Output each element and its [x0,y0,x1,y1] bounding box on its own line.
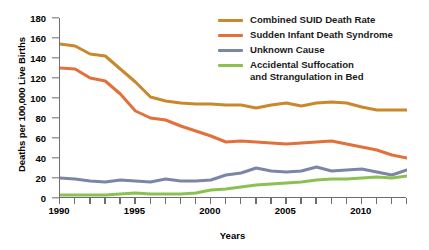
y-tick-mark [52,157,59,158]
legend-swatch-icon [218,34,243,37]
y-tick-mark [52,117,59,118]
x-tick-mark [270,198,271,204]
x-tick-mark [165,198,166,204]
x-tick-mark [391,198,392,204]
x-tick-mark [240,198,241,204]
legend-swatch-icon [218,19,243,22]
x-tick-label: 1990 [48,205,69,216]
x-tick-mark [210,198,211,204]
legend-item-label: Sudden Infant Death Syndrome [250,29,393,41]
y-tick-label: 80 [0,113,46,124]
x-tick-mark [406,198,407,204]
y-tick-mark [52,77,59,78]
y-tick-mark [52,177,59,178]
x-tick-mark [255,198,256,204]
y-tick-label: 160 [0,33,46,44]
y-tick-label: 120 [0,73,46,84]
x-tick-mark [180,198,181,204]
x-tick-mark [195,198,196,204]
chart-legend: Combined SUID Death RateSudden Infant De… [218,14,424,86]
y-tick-label: 0 [0,193,46,204]
y-tick-mark [52,57,59,58]
legend-swatch-icon [218,49,243,52]
x-tick-mark [315,198,316,204]
legend-item-label: Unknown Cause [250,44,325,56]
line-chart: Deaths per 100,000 Live Births 020406080… [0,0,429,250]
y-tick-label: 40 [0,153,46,164]
legend-item[interactable]: Unknown Cause [218,44,424,56]
x-tick-mark [346,198,347,204]
legend-swatch-icon [218,64,243,67]
x-axis-title: Years [59,230,406,241]
x-tick-mark [285,198,286,204]
y-tick-label: 20 [0,173,46,184]
y-tick-mark [52,17,59,18]
legend-item[interactable]: Combined SUID Death Rate [218,14,424,26]
y-tick-label: 60 [0,133,46,144]
x-tick-mark [89,198,90,204]
legend-item-label: Accidental Suffocation and Strangulation… [250,59,364,82]
legend-item[interactable]: Accidental Suffocation and Strangulation… [218,59,424,82]
y-tick-label: 100 [0,93,46,104]
y-tick-label: 140 [0,53,46,64]
x-tick-label: 1995 [124,205,145,216]
x-tick-mark [376,198,377,204]
legend-item[interactable]: Sudden Infant Death Syndrome [218,29,424,41]
legend-item-label: Combined SUID Death Rate [250,14,375,26]
x-tick-label: 2010 [350,205,371,216]
x-tick-mark [104,198,105,204]
x-tick-mark [331,198,332,204]
x-tick-mark [59,198,60,204]
y-tick-label: 180 [0,13,46,24]
x-tick-mark [150,198,151,204]
x-tick-label: 2005 [275,205,296,216]
y-tick-mark [52,37,59,38]
y-tick-mark [52,197,59,198]
y-tick-mark [52,97,59,98]
x-tick-mark [134,198,135,204]
y-tick-mark [52,137,59,138]
series-line [60,176,407,195]
x-tick-mark [361,198,362,204]
x-tick-mark [119,198,120,204]
x-tick-mark [225,198,226,204]
x-tick-mark [300,198,301,204]
x-tick-label: 2000 [199,205,220,216]
x-tick-mark [74,198,75,204]
